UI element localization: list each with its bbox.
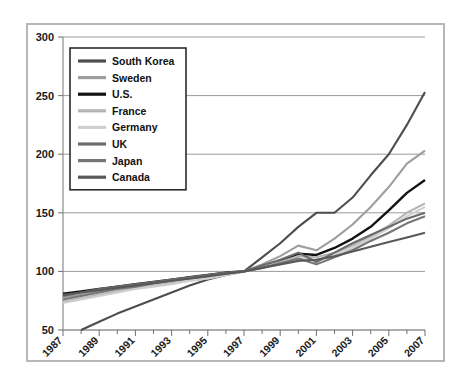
legend-label: Germany [112, 121, 158, 133]
legend-label: Canada [112, 171, 150, 183]
x-axis-tick-label: 2003 [329, 334, 354, 359]
x-axis-tick-label: 1989 [76, 334, 101, 359]
x-axis-tick-label: 1993 [148, 334, 173, 359]
y-axis-tick-label: 150 [36, 207, 54, 219]
x-axis-tick-label: 1995 [184, 334, 209, 359]
y-axis-tick-label: 300 [36, 31, 54, 43]
legend-label: France [112, 105, 147, 117]
legend-box [70, 48, 186, 190]
x-axis-tick-label: 1999 [257, 334, 282, 359]
page-root: 50100150200250300 1987198919911993199519… [0, 0, 475, 392]
y-axis-tick-label: 50 [42, 324, 54, 336]
x-axis-tick-label: 1991 [112, 334, 137, 359]
legend-label: South Korea [112, 55, 175, 67]
x-axis-group: 1987198919911993199519971999200120032005… [39, 330, 426, 359]
y-axis-tick-label: 100 [36, 265, 54, 277]
y-axis-tick-label: 250 [36, 90, 54, 102]
legend-label: UK [112, 138, 128, 150]
y-axis-tick-label: 200 [36, 148, 54, 160]
x-axis-tick-label: 1997 [220, 334, 245, 359]
legend-label: Japan [112, 155, 142, 167]
x-axis-tick-label: 2001 [293, 334, 318, 359]
chart-svg: 50100150200250300 1987198919911993199519… [0, 0, 475, 392]
x-axis-tick-label: 1987 [39, 334, 64, 359]
line-chart: 50100150200250300 1987198919911993199519… [0, 0, 475, 392]
legend-label: U.S. [112, 88, 133, 100]
legend-label: Sweden [112, 72, 152, 84]
legend-group[interactable]: South KoreaSwedenU.S.FranceGermanyUKJapa… [70, 48, 186, 190]
x-axis-tick-label: 2007 [401, 334, 426, 359]
x-axis-tick-label: 2005 [365, 334, 390, 359]
y-axis-group: 50100150200250300 [36, 31, 63, 336]
